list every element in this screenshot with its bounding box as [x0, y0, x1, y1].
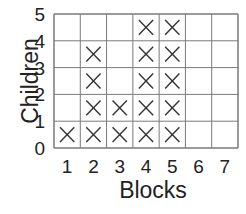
y-tick-label: 0: [34, 138, 45, 159]
x-mark-icon: [86, 100, 100, 115]
y-tick-label: 5: [34, 4, 45, 25]
x-mark-icon: [165, 74, 179, 89]
x-mark-icon: [113, 100, 127, 115]
x-mark-icon: [139, 47, 153, 62]
x-mark-icon: [86, 74, 100, 89]
x-axis-ticks: 1234567: [62, 156, 230, 177]
x-tick-label: 5: [167, 156, 178, 177]
x-mark-icon: [139, 127, 153, 142]
x-mark-icon: [165, 127, 179, 142]
y-axis-label: Children: [17, 38, 43, 124]
x-tick-label: 6: [193, 156, 204, 177]
x-mark-icon: [165, 100, 179, 115]
x-mark-icon: [139, 100, 153, 115]
x-tick-label: 1: [62, 156, 73, 177]
x-mark-icon: [139, 20, 153, 35]
x-axis-label: Blocks: [119, 177, 187, 203]
x-tick-label: 7: [220, 156, 231, 177]
x-mark-chart: 012345 1234567 Blocks Children: [0, 0, 246, 214]
x-marks: [60, 20, 179, 142]
x-tick-label: 4: [141, 156, 152, 177]
x-mark-icon: [139, 74, 153, 89]
x-mark-icon: [86, 47, 100, 62]
x-mark-icon: [165, 47, 179, 62]
x-tick-label: 2: [88, 156, 99, 177]
x-tick-label: 3: [114, 156, 125, 177]
x-mark-icon: [60, 127, 74, 142]
x-mark-icon: [113, 127, 127, 142]
x-mark-icon: [86, 127, 100, 142]
x-mark-icon: [165, 20, 179, 35]
